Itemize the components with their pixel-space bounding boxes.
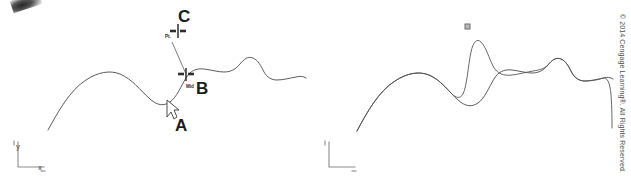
spline-curve-original-reference[interactable] [357, 58, 613, 131]
left-panel-drawing [0, 0, 311, 187]
point-label-a: A [175, 117, 187, 134]
midpoint-snap-label: Mid [186, 85, 194, 90]
leader-line-c-to-b [172, 42, 186, 74]
copyright-text: © 2014 Cengage Learning®. All Rights Res… [619, 14, 626, 173]
axis-label-y-left: y [16, 143, 20, 150]
midpoint-snap-marker[interactable] [178, 68, 194, 81]
control-point-grip[interactable] [465, 24, 470, 29]
panel-spline-after: y x [311, 0, 622, 187]
point-snap-marker[interactable] [170, 24, 186, 38]
point-snap-label: Pt. [165, 35, 171, 40]
right-panel-drawing [311, 0, 631, 187]
panel-spline-before: A B C Pt. Mid y x [0, 0, 311, 187]
point-label-c: C [178, 8, 190, 25]
axis-label-x-left: x [38, 164, 42, 171]
spline-curve-modified[interactable] [357, 40, 612, 131]
copyright-notice: © 2014 Cengage Learning®. All Rights Res… [615, 0, 629, 187]
axis-icon-right [325, 141, 356, 171]
figure-root: A B C Pt. Mid y x y x © 2014 Cengage [0, 0, 631, 187]
point-label-b: B [196, 80, 208, 97]
